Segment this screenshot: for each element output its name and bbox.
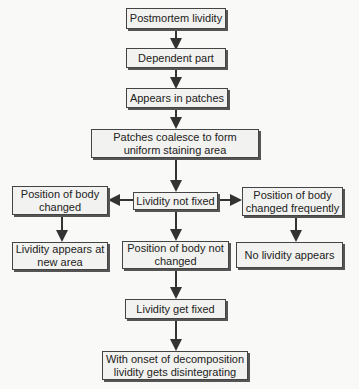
node-no-lividity: No lividity appears (236, 242, 343, 268)
node-appears-in-patches: Appears in patches (126, 88, 228, 108)
node-position-changed-frequently: Position of body changed frequently (242, 187, 343, 216)
node-postmortem-lividity: Postmortem lividity (126, 8, 226, 29)
node-lividity-get-fixed: Lividity get fixed (125, 299, 226, 319)
node-dependent-part: Dependent part (126, 48, 226, 68)
node-position-not-changed: Position of body not changed (122, 241, 229, 269)
node-decomposition: With onset of decomposition lividity get… (102, 351, 248, 380)
node-position-changed: Position of body changed (12, 186, 108, 215)
node-lividity-not-fixed: Lividity not fixed (133, 192, 218, 210)
node-lividity-new-area: Lividity appears at new area (12, 242, 108, 270)
node-patches-coalesce: Patches coalesce to form uniform stainin… (91, 129, 259, 158)
